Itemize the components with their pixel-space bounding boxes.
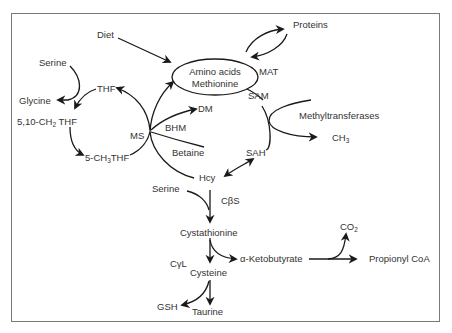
arrow-serine-to-glycine [58, 66, 80, 100]
node-alpha-ketobutyrate: α-Ketobutyrate [240, 254, 303, 264]
methionine-ellipse [172, 59, 258, 95]
node-gsh: GSH [157, 302, 178, 312]
line-serine-to-cbs [187, 191, 209, 210]
arrow-sah-hcy [225, 159, 253, 176]
node-sah: SAH [246, 148, 266, 158]
enzyme-cgl: CγL [170, 259, 187, 269]
arc-sam-to-sah [262, 106, 270, 150]
node-diet: Diet [97, 30, 114, 40]
enzyme-mat: MAT [259, 67, 278, 77]
arrow-methionine-to-proteins [246, 29, 283, 52]
node-methylene-thf: 5,10-CH2 THF [17, 117, 77, 129]
enzyme-ms: MS [130, 131, 144, 141]
enzyme-cbs: CβS [221, 196, 240, 206]
node-proteins: Proteins [293, 20, 328, 30]
node-taurine: Taurine [192, 307, 223, 317]
arrow-diet-to-methionine [118, 38, 170, 62]
node-propionyl-coa: Propionyl CoA [369, 254, 430, 264]
node-ch3: CH3 [332, 133, 349, 145]
enzyme-bhm: BHM [165, 123, 186, 133]
arrow-ms-to-thf [117, 88, 150, 130]
node-serine-folate: Serine [39, 58, 66, 68]
node-cysteine: Cysteine [190, 268, 227, 278]
line-betaine-to-ms [151, 132, 204, 147]
node-thf: THF [97, 84, 115, 94]
node-betaine: Betaine [172, 148, 204, 158]
node-methionine: Methionine [192, 79, 238, 89]
node-dm: DM [198, 104, 213, 114]
node-serine-transsulfuration: Serine [152, 184, 179, 194]
pathway-arrows [0, 0, 452, 333]
node-methyl-thf: 5-CH3THF [85, 153, 129, 165]
node-glycine: Glycine [19, 96, 51, 106]
node-sam: SAM [248, 91, 269, 101]
arrow-cystathionine-to-ketobutyrate [210, 240, 236, 259]
arrow-branch-co2 [328, 234, 346, 259]
node-hcy: Hcy [199, 173, 215, 183]
arrow-cysteine-to-gsh [182, 281, 209, 305]
node-cystathionine: Cystathionine [180, 228, 238, 238]
node-co2: CO2 [340, 222, 358, 234]
node-amino-acids: Amino acids [189, 67, 241, 77]
node-methyltransferases: Methyltransferases [299, 111, 379, 121]
arrow-methylenethf-to-methylthf [70, 127, 83, 155]
